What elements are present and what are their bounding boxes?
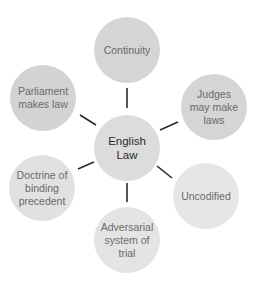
node-continuity: Continuity (94, 17, 160, 83)
node-uncodified: Uncodified (173, 163, 239, 229)
connector-uncodified (157, 166, 172, 178)
node-label: Adversarial system of trial (101, 221, 154, 260)
node-english-law: English Law (94, 115, 160, 181)
node-label: Doctrine of binding precedent (17, 169, 68, 208)
connector-judges (160, 122, 178, 130)
node-label: Continuity (104, 44, 151, 57)
node-label: Uncodified (181, 190, 231, 203)
node-label: Judges may make laws (190, 88, 238, 127)
node-adversarial-system: Adversarial system of trial (94, 207, 160, 273)
node-doctrine-of-precedent: Doctrine of binding precedent (9, 155, 75, 221)
node-label: English Law (108, 134, 146, 162)
mind-map-diagram: English Law Continuity Judges may make l… (0, 0, 257, 283)
connector-parliament (80, 115, 96, 125)
connector-doctrine (78, 162, 94, 169)
node-parliament-makes-law: Parliament makes law (10, 65, 76, 131)
node-judges-may-make-laws: Judges may make laws (181, 74, 247, 140)
node-label: Parliament makes law (18, 85, 68, 111)
